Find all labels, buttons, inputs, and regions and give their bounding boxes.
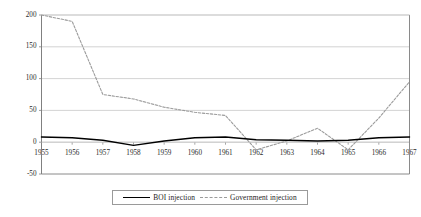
x-tick-label: 1959 <box>157 149 172 157</box>
x-tick-label: 1960 <box>188 149 203 157</box>
legend-item-boi-injection: BOI injection <box>123 193 195 202</box>
y-tick-label: 50 <box>29 106 37 114</box>
x-tick-label: 1956 <box>65 149 80 157</box>
y-tick-label: 200 <box>26 11 37 19</box>
series-line-government-injection <box>42 15 410 150</box>
x-tick-label: 1965 <box>341 149 356 157</box>
y-tick-label: 100 <box>26 74 37 82</box>
x-axis-tick-labels: 1955195619571958195919601961196219631964… <box>34 149 417 157</box>
chart-container: 200150100500-50 195519561957195819591960… <box>0 0 421 217</box>
x-tick-label: 1957 <box>96 149 111 157</box>
x-tick-label: 1958 <box>126 149 141 157</box>
line-chart-svg: 200150100500-50 195519561957195819591960… <box>0 0 421 182</box>
y-tick-label: 150 <box>26 42 37 50</box>
plot-area: 200150100500-50 195519561957195819591960… <box>0 0 421 182</box>
chart-legend: BOI injection Government injection <box>112 190 308 205</box>
x-tick-label: 1964 <box>310 149 325 157</box>
legend-swatch-dashed-line-icon <box>200 197 227 198</box>
series-government-injection <box>42 15 410 150</box>
y-tick-label: -50 <box>27 170 37 178</box>
x-tick-label: 1962 <box>249 149 264 157</box>
legend-item-government-injection: Government injection <box>200 193 297 202</box>
y-tick-label: 0 <box>33 138 37 146</box>
legend-label-government-injection: Government injection <box>230 193 297 202</box>
x-tick-label: 1966 <box>372 149 387 157</box>
legend-swatch-solid-line-icon <box>123 197 150 198</box>
legend-label-boi-injection: BOI injection <box>153 193 195 202</box>
x-tick-label: 1961 <box>218 149 233 157</box>
x-tick-label: 1963 <box>280 149 295 157</box>
